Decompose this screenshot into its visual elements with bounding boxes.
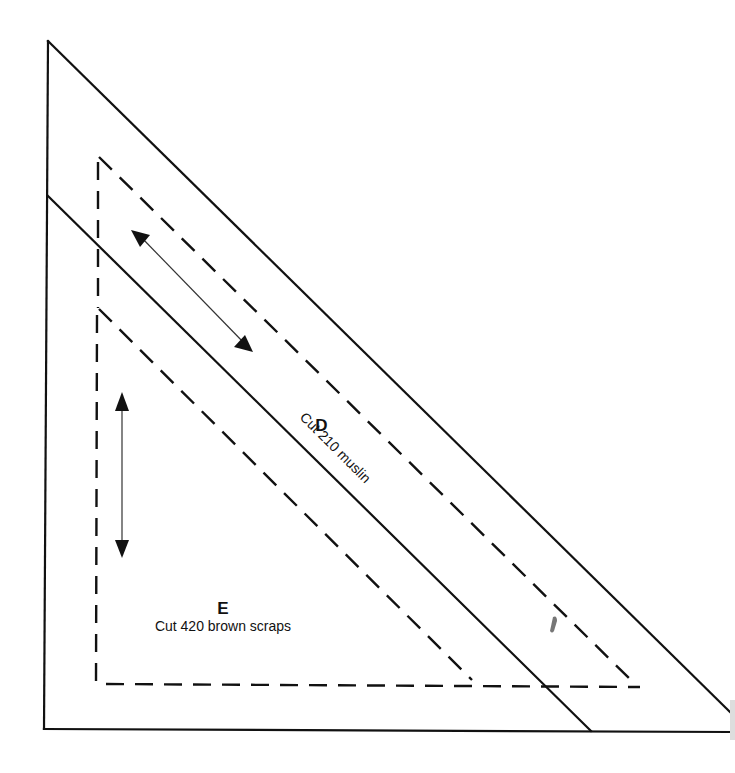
arrow-head-up-icon: [115, 392, 129, 411]
arrow-head-down-icon: [115, 540, 129, 558]
piece-e-label: E Cut 420 brown scraps: [155, 599, 291, 634]
piece-d-seam-top: [99, 157, 633, 682]
piece-e-instruction: Cut 420 brown scraps: [155, 618, 291, 634]
hypotenuse-edge: [48, 41, 731, 713]
left-edge: [44, 41, 48, 729]
piece-e-letter: E: [217, 599, 228, 618]
piece-e-seam-left: [96, 315, 97, 683]
piece-d-instruction: Cut 210 muslin: [297, 409, 374, 486]
piece-e-grain-arrow: [115, 392, 129, 558]
shared-seam-bottom: [106, 684, 640, 687]
bottom-edge: [44, 729, 730, 732]
piece-divider-line: [48, 196, 591, 731]
quilt-template-diagram: D Cut 210 muslin E Cut 420 brown scraps: [0, 0, 735, 773]
scan-smudge: [550, 617, 557, 633]
piece-d-sewing-line: [98, 157, 633, 682]
grain-arrow-shaft: [140, 236, 246, 345]
page-edge-shadow: [730, 700, 735, 740]
arrow-head-up-left-icon: [131, 230, 150, 247]
arrow-head-down-right-icon: [234, 335, 253, 352]
outer-cutting-outline: [44, 41, 731, 732]
